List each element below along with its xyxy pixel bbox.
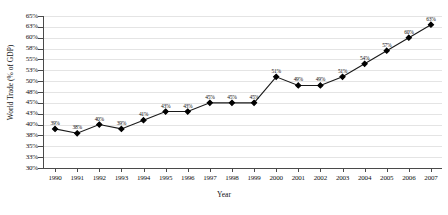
data-point-label: 51% [272,68,281,74]
data-point-label: 38% [73,125,82,131]
data-series-line [0,0,448,215]
data-point-label: 54% [360,55,369,61]
world-trade-line-chart: 30%33%35%38%40%43%45%48%50%53%55%58%60%6… [0,0,448,215]
data-point-label: 45% [205,94,214,100]
data-point-label: 45% [227,94,236,100]
data-point-label: 49% [294,77,303,83]
data-point-label: 57% [382,42,391,48]
data-point-label: 60% [404,29,413,35]
y-axis-title: World Trade (% of GDP) [6,18,15,148]
data-point-label: 63% [426,16,435,22]
data-point-label: 43% [161,103,170,109]
data-point-label: 51% [338,68,347,74]
data-point-label: 45% [249,94,258,100]
x-axis-title: Year [0,190,448,199]
data-point-label: 49% [316,77,325,83]
data-point-label: 41% [139,112,148,118]
data-point-label: 39% [50,120,59,126]
data-point-label: 39% [117,120,126,126]
data-point-label: 43% [183,103,192,109]
data-point-label: 40% [95,116,104,122]
